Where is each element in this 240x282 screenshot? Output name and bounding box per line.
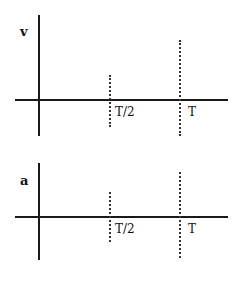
a-axis-label: a xyxy=(20,174,28,187)
v-vertical-axis xyxy=(38,15,40,136)
v-axis-label: v xyxy=(20,25,28,38)
a-horizontal-axis xyxy=(15,216,228,218)
a-marker-period xyxy=(179,172,181,258)
v-marker-period xyxy=(179,40,181,136)
a-tick-label-half-period: T/2 xyxy=(115,223,135,235)
a-vertical-axis xyxy=(38,163,40,260)
a-marker-half-period xyxy=(109,192,111,242)
v-tick-label-half-period: T/2 xyxy=(115,106,135,118)
a-tick-label-period: T xyxy=(188,223,196,235)
v-tick-label-period: T xyxy=(188,106,196,118)
v-horizontal-axis xyxy=(15,99,228,101)
v-marker-half-period xyxy=(109,75,111,127)
